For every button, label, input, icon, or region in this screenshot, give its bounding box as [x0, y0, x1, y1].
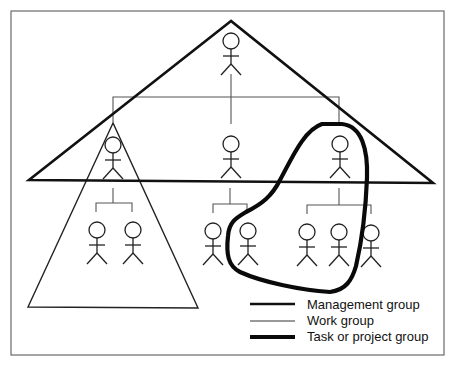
legend-label: Work group	[307, 313, 374, 328]
org-groups-diagram: Management group Work group Task or proj…	[0, 0, 452, 369]
legend-label: Task or project group	[307, 329, 428, 344]
legend-label: Management group	[307, 297, 420, 312]
